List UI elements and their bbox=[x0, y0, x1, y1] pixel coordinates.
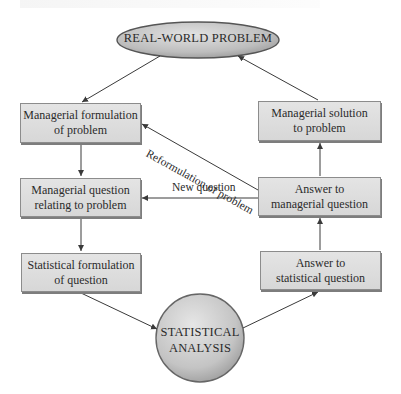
managerial-question-label: Managerial question relating to problem bbox=[31, 183, 129, 213]
managerial-question-box: Managerial question relating to problem bbox=[20, 178, 141, 217]
statistical-formulation-box: Statistical formulation of question bbox=[21, 253, 141, 292]
managerial-solution-label: Managerial solution to problem bbox=[271, 106, 367, 136]
diagram-canvas: REAL-WORLD PROBLEM Managerial formulatio… bbox=[0, 0, 401, 394]
arrow-problem-to-formulation bbox=[82, 56, 160, 102]
arrow-statistical-formulation-to-analysis bbox=[81, 293, 157, 329]
arrow-analysis-to-answer-statistical bbox=[243, 292, 318, 328]
managerial-formulation-box: Managerial formulation of problem bbox=[20, 103, 141, 143]
managerial-solution-box: Managerial solution to problem bbox=[258, 101, 381, 141]
answer-statistical-box: Answer to statistical question bbox=[260, 251, 381, 290]
answer-managerial-box: Answer to managerial question bbox=[258, 177, 381, 216]
statistical-formulation-label: Statistical formulation of question bbox=[28, 258, 135, 288]
answer-statistical-label: Answer to statistical question bbox=[276, 256, 365, 286]
arrow-solution-to-problem bbox=[238, 56, 318, 100]
managerial-formulation-label: Managerial formulation of problem bbox=[23, 108, 137, 138]
answer-managerial-label: Answer to managerial question bbox=[271, 182, 368, 212]
real-world-problem-label: REAL-WORLD PROBLEM bbox=[117, 31, 279, 46]
statistical-analysis-label: STATISTICAL ANALYSIS bbox=[155, 324, 245, 356]
new-question-edge-label: New question bbox=[172, 181, 236, 193]
